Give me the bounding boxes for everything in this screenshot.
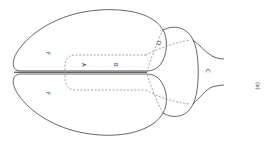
region-d-dashed-upper — [146, 40, 190, 55]
upper-hemisphere-outline — [13, 10, 166, 71]
label-d: D — [156, 41, 162, 45]
label-b: B — [113, 63, 119, 67]
label-c: C — [205, 69, 211, 73]
region-d-dashed-lower-2 — [147, 74, 163, 113]
region-d-dashed-upper-2 — [147, 30, 163, 72]
label-f-upper: F — [45, 52, 51, 55]
lower-hemisphere-outline — [13, 74, 166, 135]
label-panel: (e) — [255, 82, 261, 90]
label-a: A — [81, 63, 87, 67]
label-f-lower: F — [45, 92, 51, 95]
cerebellum-outline — [163, 27, 198, 116]
region-d-dashed-lower — [146, 90, 190, 104]
brain-diagram: F F A B D C (e) — [0, 0, 276, 143]
